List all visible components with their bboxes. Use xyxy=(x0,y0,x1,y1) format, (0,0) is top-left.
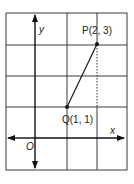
point-q-label: Q(1, 1) xyxy=(62,114,93,125)
y-axis-label: y xyxy=(38,24,45,35)
point-p xyxy=(95,42,99,46)
diagram-canvas: y x O P(2, 3) Q(1, 1) xyxy=(0,0,134,184)
x-axis-label: x xyxy=(109,125,116,136)
coordinate-diagram: y x O P(2, 3) Q(1, 1) xyxy=(0,0,134,184)
vertical-grid-lines xyxy=(67,13,97,170)
origin-label: O xyxy=(26,141,34,152)
point-p-label: P(2, 3) xyxy=(82,25,112,36)
point-q xyxy=(65,105,69,109)
